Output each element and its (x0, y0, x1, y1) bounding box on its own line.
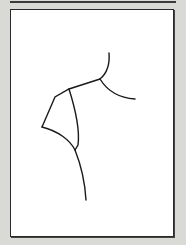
sleeve-seam (69, 89, 78, 150)
shoulder-line (42, 79, 100, 127)
neckline-curve (100, 79, 135, 99)
body-side-line (75, 150, 86, 200)
armhole-curve (42, 127, 75, 150)
neck-line (100, 53, 109, 79)
shoulder-sketch (0, 0, 186, 245)
